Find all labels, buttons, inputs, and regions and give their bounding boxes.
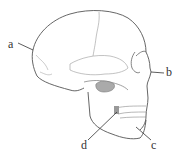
lambdoid-suture	[36, 55, 52, 75]
temporal-bone-outline	[70, 55, 128, 74]
coronal-suture	[93, 12, 99, 56]
upper-teeth	[116, 106, 146, 114]
skull-diagram: a b c d	[0, 0, 186, 160]
occipital-outline	[32, 50, 84, 91]
label-a: a	[8, 38, 13, 50]
lower-teeth	[120, 117, 146, 118]
orbit-outline	[131, 51, 146, 73]
leader-line-a	[18, 43, 33, 50]
leader-line-b	[151, 72, 164, 73]
label-c: c	[151, 139, 156, 151]
skull-illustration	[0, 0, 186, 160]
label-b: b	[166, 66, 172, 78]
leader-line-d	[88, 112, 117, 140]
label-d: d	[81, 139, 87, 151]
mastoid-shading	[96, 81, 115, 92]
